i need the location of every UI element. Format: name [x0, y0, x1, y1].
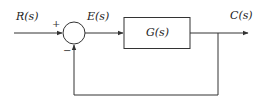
block-label: G(s) — [146, 27, 169, 38]
feedback-path — [74, 33, 218, 95]
summing-junction — [63, 22, 85, 44]
error-label: E(s) — [87, 11, 109, 22]
input-label: R(s) — [16, 11, 39, 22]
block-diagram: R(s) + − E(s) G(s) C(s) — [0, 0, 262, 101]
output-label: C(s) — [230, 10, 253, 21]
diagram-lines — [0, 0, 262, 101]
minus-sign: − — [63, 46, 71, 56]
plus-sign: + — [52, 19, 60, 29]
